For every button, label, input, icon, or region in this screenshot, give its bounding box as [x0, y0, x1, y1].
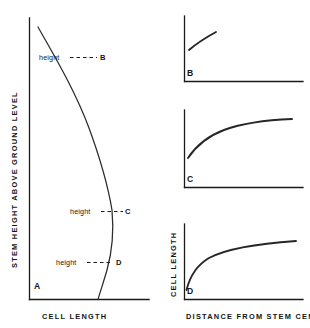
- panel-a-x-axis-title: CELL LENGTH: [42, 312, 107, 321]
- right-column-x-axis-title: DISTANCE FROM STEM CENTRE: [186, 312, 310, 321]
- panel-d-y-axis-title: CELL LENGTH: [169, 232, 178, 297]
- panel-c-letter: C: [187, 174, 193, 184]
- panel-a-letter: A: [34, 281, 40, 291]
- panel-b: B: [185, 16, 304, 82]
- callout-b: height B: [39, 53, 106, 62]
- callout-c-letter: C: [125, 207, 131, 216]
- panel-a: height B height C height D A STEM HEIGHT…: [10, 18, 149, 321]
- callout-d-label: height: [56, 258, 76, 267]
- panel-d: D CELL LENGTH: [169, 224, 303, 300]
- panel-a-y-axis-title: STEM HEIGHT ABOVE GROUND LEVEL: [10, 91, 19, 268]
- callout-c: height C: [70, 207, 131, 216]
- callout-c-label: height: [70, 207, 90, 216]
- panel-b-curve: [189, 32, 216, 50]
- callout-b-label: height: [39, 53, 59, 62]
- panel-c-curve: [188, 119, 292, 158]
- callout-d: height D: [56, 258, 122, 267]
- panel-d-curve: [187, 241, 297, 290]
- callout-d-letter: D: [116, 258, 122, 267]
- panel-d-letter: D: [187, 286, 193, 296]
- figure-container: height B height C height D A STEM HEIGHT…: [0, 0, 310, 328]
- panel-c: C: [185, 110, 304, 188]
- figure-svg: height B height C height D A STEM HEIGHT…: [0, 0, 310, 328]
- callout-b-letter: B: [100, 53, 106, 62]
- panel-b-letter: B: [187, 68, 193, 78]
